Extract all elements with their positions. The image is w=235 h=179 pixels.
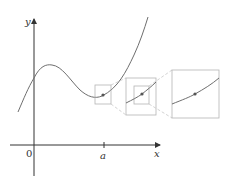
point-a xyxy=(101,93,104,96)
zoom-diagram: y x 0 a xyxy=(0,0,235,179)
connector xyxy=(149,104,172,118)
point-a-label: a xyxy=(100,150,106,161)
x-axis-label: x xyxy=(154,148,160,159)
zoom-box-2 xyxy=(126,78,156,115)
function-curve xyxy=(18,17,148,112)
zoom-curve-2 xyxy=(126,82,156,103)
zoom-curve-3 xyxy=(172,78,219,104)
zoom-point-2 xyxy=(140,92,143,95)
connector xyxy=(111,104,126,115)
origin-label: 0 xyxy=(26,148,32,159)
y-axis-label: y xyxy=(24,16,31,27)
zoom-point-3 xyxy=(193,92,196,95)
